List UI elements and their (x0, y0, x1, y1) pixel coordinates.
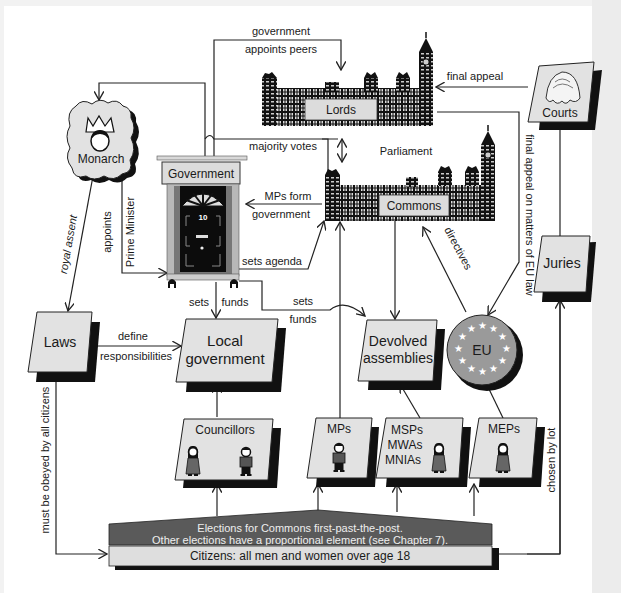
label-responsibilities: responsibilities (100, 350, 173, 362)
edge-meps-eu (488, 387, 503, 418)
label-chosen-by-lot: chosen by lot (545, 428, 557, 493)
eu-node[interactable]: ★ ★ ★ ★ ★ ★ ★ ★ ★ ★ ★ ★ EU (447, 315, 523, 391)
parliament-label: Parliament (380, 145, 433, 157)
svg-text:★: ★ (478, 320, 487, 331)
label-mps-form-government: government (252, 208, 310, 220)
person-female-icon (186, 446, 200, 476)
citizens-label: Citizens: all men and women over age 18 (190, 549, 410, 563)
person-female-icon (496, 443, 510, 473)
elections-line2: Other elections have a proportional elem… (152, 534, 448, 546)
devolved-line1: Devolved (369, 333, 427, 349)
msps-line3: MNIAs (385, 453, 421, 467)
label-sets: sets (189, 296, 210, 308)
label-government: government (252, 25, 310, 37)
label-sets-agenda: sets agenda (242, 255, 303, 267)
label-sets-devolved: sets (293, 295, 314, 307)
juries-node[interactable]: Juries (534, 236, 596, 302)
svg-text:★: ★ (467, 323, 476, 334)
courts-label: Courts (542, 106, 577, 120)
diagram-svg: Lords Commons Parliament (0, 0, 621, 593)
monarch-node[interactable]: Monarch (67, 100, 139, 183)
courts-node[interactable]: Courts (528, 62, 602, 130)
mps-label: MPs (327, 422, 351, 436)
commons-building[interactable]: Commons (325, 125, 495, 221)
label-appoints-peers: appoints peers (245, 43, 318, 55)
person-female-icon (432, 443, 446, 473)
label-define: define (118, 330, 148, 342)
local-government-line1: Local (207, 332, 243, 349)
monarch-label: Monarch (78, 152, 125, 166)
local-government-line2: government (185, 350, 265, 367)
meps-node[interactable]: MEPs (469, 418, 545, 487)
label-funds: funds (222, 296, 249, 308)
laws-node[interactable]: Laws (28, 312, 100, 382)
councillors-node[interactable]: Councillors (175, 419, 281, 488)
devolved-assemblies-node[interactable]: Devolved assemblies (358, 320, 445, 390)
local-government-node[interactable]: Local government (176, 319, 286, 392)
elections-line1: Elections for Commons first-past-the-pos… (197, 522, 402, 534)
edge-must-be-obeyed (56, 374, 107, 554)
svg-text:★: ★ (454, 343, 463, 354)
svg-text:★: ★ (467, 363, 476, 374)
label-directives: directives (442, 225, 475, 272)
eu-label: EU (472, 342, 491, 358)
label-final-appeal: final appeal (447, 70, 503, 82)
label-final-appeal-eu: final appeal on matters of EU law (524, 134, 536, 295)
label-majority-votes: majority votes (249, 140, 317, 152)
svg-text:★: ★ (478, 366, 487, 377)
label-prime-minister: Prime Minister (124, 197, 136, 268)
svg-text:★: ★ (498, 331, 507, 342)
door-number: 10 (199, 213, 208, 222)
svg-text:★: ★ (458, 331, 467, 342)
meps-label: MEPs (488, 422, 520, 436)
svg-text:★: ★ (502, 343, 511, 354)
svg-text:★: ★ (489, 323, 498, 334)
devolved-line2: assemblies (363, 350, 433, 366)
councillors-label: Councillors (195, 423, 254, 437)
mps-node[interactable]: MPs (307, 418, 379, 487)
svg-text:★: ★ (489, 363, 498, 374)
label-funds-devolved: funds (290, 313, 317, 325)
svg-text:★: ★ (458, 355, 467, 366)
svg-text:★: ★ (498, 355, 507, 366)
msps-line2: MWAs (388, 438, 423, 452)
lords-label: Lords (326, 103, 356, 117)
label-appoints: appoints (101, 211, 113, 253)
label-mps-form: MPs form (264, 190, 311, 202)
laws-label: Laws (44, 334, 77, 350)
diagram-canvas: Lords Commons Parliament (0, 0, 621, 593)
government-node[interactable]: Government 10 (157, 156, 247, 288)
msps-node[interactable]: MSPs MWAs MNIAs (376, 418, 471, 487)
elections-citizens-node[interactable]: Elections for Commons first-past-the-pos… (109, 510, 499, 570)
person-male-icon (240, 448, 252, 477)
government-label: Government (168, 167, 235, 181)
label-must-be-obeyed: must be obeyed by all citizens (39, 386, 51, 533)
commons-label: Commons (387, 199, 442, 213)
juries-label: Juries (543, 255, 580, 271)
msps-line1: MSPs (391, 423, 423, 437)
person-male-icon (333, 444, 345, 473)
edge-majority-link (205, 136, 338, 140)
